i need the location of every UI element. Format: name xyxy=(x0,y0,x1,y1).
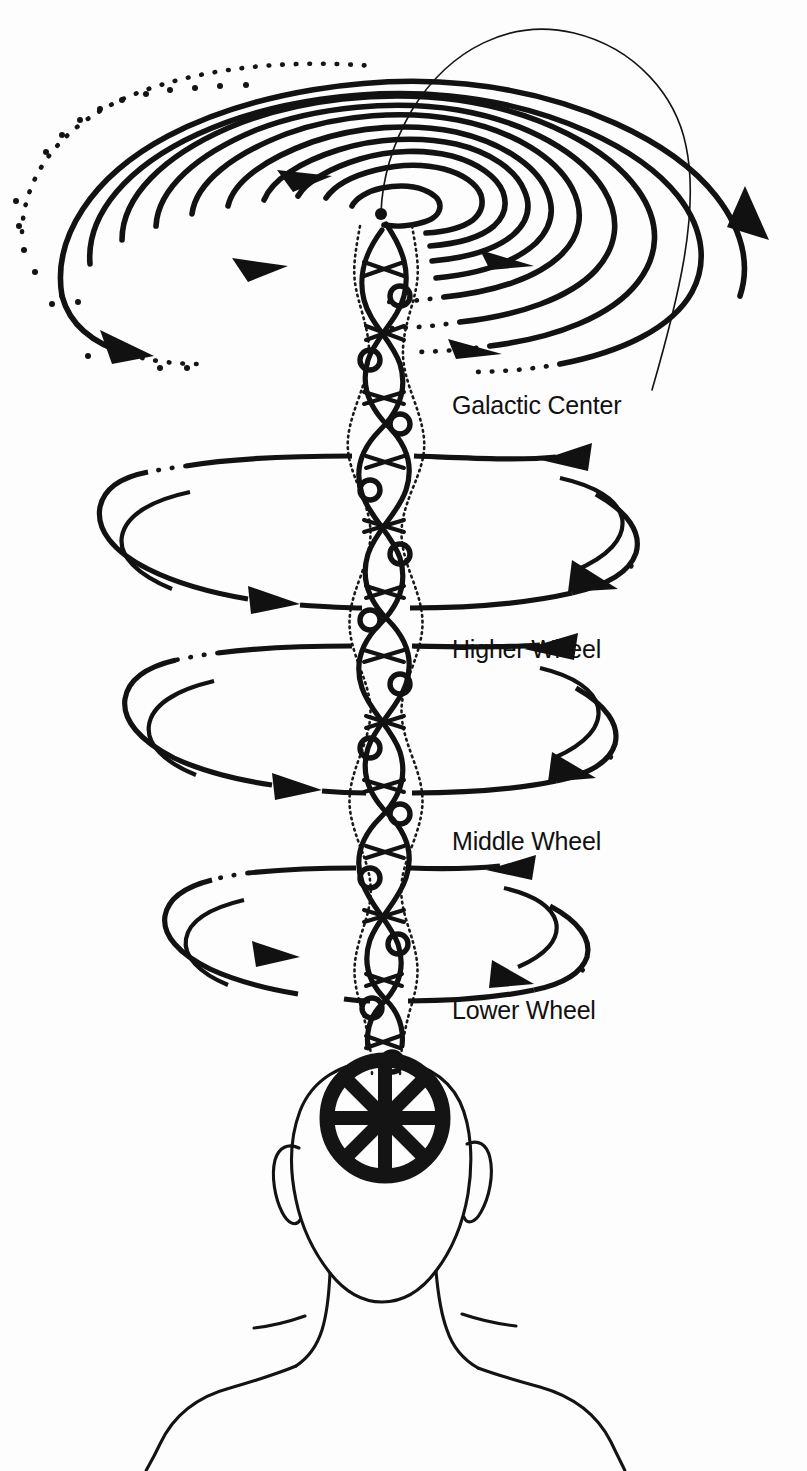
background xyxy=(0,0,807,1471)
wheel-higher-bottom-arc xyxy=(300,605,362,608)
label-galactic-center: Galactic Center xyxy=(452,391,621,419)
wheel-higher-top-arc xyxy=(414,456,556,459)
diagram-canvas: Galactic Center Higher Wheel Middle Whee… xyxy=(0,0,807,1471)
head-wheel-symbol xyxy=(327,1060,443,1176)
wheel-lower-top-arc xyxy=(410,866,500,869)
galactic-wheels-illustration: Galactic Center Higher Wheel Middle Whee… xyxy=(0,0,807,1471)
label-lower-wheel: Lower Wheel xyxy=(452,996,596,1024)
wheel-middle-bottom-arc xyxy=(322,791,366,793)
wheel-lower-bottom-arc xyxy=(344,999,370,1001)
label-higher-wheel: Higher Wheel xyxy=(452,635,601,663)
label-middle-wheel: Middle Wheel xyxy=(452,827,601,855)
